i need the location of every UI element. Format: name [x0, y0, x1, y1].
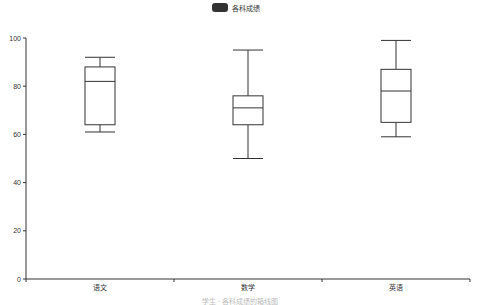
x-category-label: 数学 [241, 283, 255, 292]
y-tick-label: 80 [13, 83, 21, 90]
y-tick-label: 100 [9, 35, 21, 42]
y-tick-label: 20 [13, 227, 21, 234]
y-axis: 020406080100 [9, 35, 26, 283]
iqr-box [381, 69, 411, 122]
boxplot-chart: 各科成绩 020406080100 语文数学英语 学生 · 各科成绩的箱线图 [0, 0, 480, 305]
x-category-label: 语文 [93, 283, 107, 292]
box-英语 [381, 40, 411, 136]
y-tick-label: 60 [13, 131, 21, 138]
iqr-box [233, 96, 263, 125]
y-tick-label: 0 [17, 276, 21, 283]
x-axis: 语文数学英语 [26, 279, 470, 292]
legend-label[interactable]: 各科成绩 [232, 4, 260, 13]
box-数学 [233, 50, 263, 158]
legend[interactable]: 各科成绩 [212, 3, 260, 13]
y-tick-label: 40 [13, 179, 21, 186]
legend-swatch[interactable] [212, 3, 228, 12]
x-category-label: 英语 [389, 283, 403, 292]
chart-caption: 学生 · 各科成绩的箱线图 [202, 297, 279, 305]
boxes [85, 40, 411, 158]
iqr-box [85, 67, 115, 125]
box-语文 [85, 57, 115, 132]
